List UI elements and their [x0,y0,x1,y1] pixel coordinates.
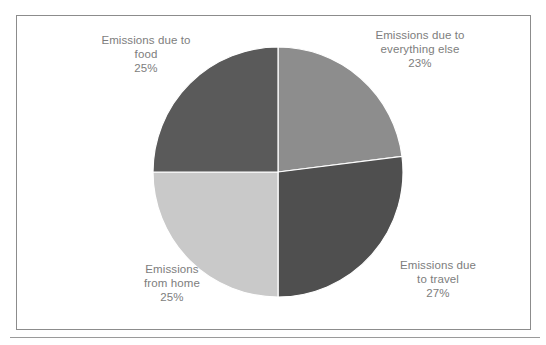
bottom-divider-rule [10,337,540,338]
pie-label-travel: Emissions due to travel 27% [360,258,516,300]
pie-label-home: Emissions from home 25% [94,262,250,304]
pie-label-everything-else-line2: everything else [338,42,502,56]
pie-label-travel-percent: 27% [360,286,516,300]
pie-label-home-percent: 25% [94,290,250,304]
pie-label-food-percent: 25% [58,61,234,75]
pie-label-everything-else-percent: 23% [338,56,502,70]
pie-label-home-line1: Emissions [94,262,250,276]
pie-label-food-line2: food [58,47,234,61]
pie-label-everything-else-line1: Emissions due to [338,28,502,42]
pie-label-travel-line2: to travel [360,272,516,286]
pie-label-food: Emissions due to food 25% [58,33,234,75]
pie-label-travel-line1: Emissions due [360,258,516,272]
pie-label-home-line2: from home [94,276,250,290]
pie-label-food-line1: Emissions due to [58,33,234,47]
pie-label-everything-else: Emissions due to everything else 23% [338,28,502,70]
pie-chart-figure: Emissions due to everything else 23% Emi… [0,0,546,345]
